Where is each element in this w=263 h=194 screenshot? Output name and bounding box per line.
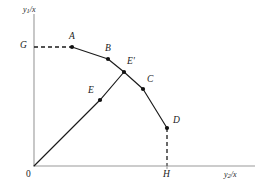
y-axis-label: y1/x <box>23 6 36 15</box>
point-marker-e <box>98 98 102 102</box>
point-label-b: B <box>105 44 111 54</box>
x-axis-label: y2/x <box>224 171 237 180</box>
origin-label: 0 <box>26 170 31 180</box>
point-marker-d <box>165 126 169 130</box>
diagram-canvas: y1/x y2/x 0 G H A B E' C D E <box>0 0 263 194</box>
point-marker-b <box>106 57 110 61</box>
point-label-c: C <box>147 75 153 85</box>
point-label-d: D <box>173 116 180 126</box>
point-marker-a <box>70 45 74 49</box>
x-axis-label-suffix: /x <box>231 170 237 179</box>
point-marker-e-prime <box>122 70 126 74</box>
axis-label-g: G <box>20 41 27 51</box>
y-axis-label-suffix: /x <box>30 5 36 14</box>
frontier-curve <box>72 47 167 128</box>
origin-ray <box>34 72 124 166</box>
axis-label-h: H <box>163 170 170 180</box>
point-marker-c <box>141 87 145 91</box>
diagram-svg <box>0 0 263 194</box>
point-label-e-prime: E' <box>127 57 135 67</box>
point-label-a: A <box>69 32 75 42</box>
point-label-e: E <box>88 86 94 96</box>
point-markers-group <box>70 45 169 130</box>
